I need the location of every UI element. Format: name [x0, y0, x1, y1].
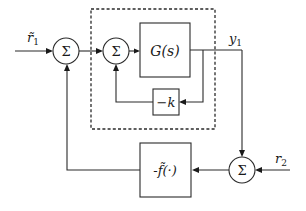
arrowhead-icon: [192, 167, 199, 173]
r1-label: r̃1: [27, 30, 39, 47]
arrowhead-icon: [113, 64, 119, 71]
plant-block: G(s): [140, 23, 190, 77]
nonlinearity-block: -f̃(·): [140, 143, 191, 197]
summing-junction-1: Σ: [53, 38, 79, 64]
y1-label: y1: [228, 31, 242, 48]
nonlinearity-to-sum1-line: [67, 66, 140, 170]
svg-text:G(s): G(s): [150, 43, 179, 59]
arrowhead-icon: [239, 150, 245, 157]
svg-text:-f̃(·): -f̃(·): [153, 162, 176, 178]
gain-block: −k: [153, 89, 179, 115]
r2-label: r2: [275, 151, 287, 168]
svg-text:Σ: Σ: [111, 44, 120, 59]
arrowhead-icon: [255, 167, 262, 173]
arrowhead-icon: [46, 48, 53, 54]
summing-junction-2: Σ: [103, 38, 129, 64]
svg-text:−k: −k: [157, 95, 176, 110]
arrowhead-icon: [96, 48, 103, 54]
svg-text:Σ: Σ: [237, 163, 246, 178]
summing-junction-3: Σ: [229, 157, 255, 183]
arrowhead-icon: [64, 64, 70, 71]
block-diagram: r̃1 Σ Σ G(s) y1 −k Σ r2: [0, 0, 306, 211]
arrowhead-icon: [134, 49, 140, 54]
arrowhead-icon: [179, 99, 186, 105]
svg-text:Σ: Σ: [61, 44, 70, 59]
